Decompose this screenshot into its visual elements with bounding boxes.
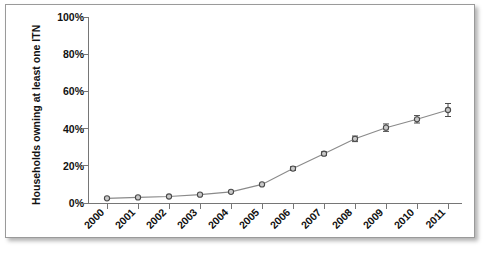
data-series-line bbox=[107, 110, 448, 198]
y-axis-title: Households owning at least one ITN bbox=[30, 25, 42, 205]
y-tick-label: 20% bbox=[63, 160, 85, 172]
data-point-marker bbox=[104, 196, 109, 201]
data-point-marker bbox=[197, 192, 202, 197]
data-point-marker bbox=[445, 107, 450, 112]
data-point-marker bbox=[135, 195, 140, 200]
line-chart-svg: Households owning at least one ITN 0%20%… bbox=[0, 0, 489, 255]
x-tick-label: 2001 bbox=[112, 206, 137, 231]
x-tick-label: 2009 bbox=[360, 206, 385, 231]
x-tick-label: 2000 bbox=[81, 206, 106, 231]
y-tick-label: 60% bbox=[63, 85, 85, 97]
x-tick-label: 2004 bbox=[205, 206, 230, 231]
data-point-marker bbox=[228, 189, 233, 194]
data-point-marker bbox=[352, 136, 357, 141]
x-tick-label: 2005 bbox=[236, 206, 261, 231]
x-axis-tick-labels: 2000200120022003200420052006200720082009… bbox=[81, 206, 447, 231]
data-point-marker bbox=[383, 125, 388, 130]
x-tick-label: 2010 bbox=[391, 206, 416, 231]
y-tick-label: 80% bbox=[63, 48, 85, 60]
x-tick-label: 2002 bbox=[143, 206, 168, 231]
data-markers bbox=[104, 107, 450, 201]
x-tick-label: 2008 bbox=[329, 206, 354, 231]
plot-area: Households owning at least one ITN 0%20%… bbox=[0, 0, 489, 255]
y-tick-label: 40% bbox=[63, 123, 85, 135]
x-tick-label: 2007 bbox=[298, 206, 323, 231]
data-point-marker bbox=[166, 194, 171, 199]
error-bars bbox=[290, 103, 451, 170]
y-axis-tick-labels: 0%20%40%60%80%100% bbox=[57, 11, 85, 209]
x-tick-label: 2003 bbox=[174, 206, 199, 231]
x-tick-label: 2006 bbox=[267, 206, 292, 231]
data-point-marker bbox=[414, 117, 419, 122]
x-tick-label: 2011 bbox=[423, 206, 448, 231]
data-point-marker bbox=[321, 151, 326, 156]
data-point-marker bbox=[290, 166, 295, 171]
data-point-marker bbox=[259, 182, 264, 187]
chart-page: Households owning at least one ITN 0%20%… bbox=[0, 0, 489, 255]
y-tick-label: 100% bbox=[57, 11, 85, 23]
y-axis-ticks bbox=[82, 17, 88, 203]
